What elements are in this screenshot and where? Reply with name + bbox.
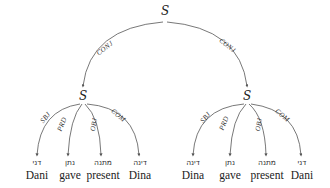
right-word-4-hebrew: דני — [298, 158, 307, 167]
edge-left-prd — [68, 104, 82, 155]
label-right-sbj: SBJ — [199, 110, 213, 125]
left-word-3-english: present — [86, 169, 120, 182]
left-word-3-hebrew: מתנה — [94, 158, 112, 167]
left-word-2-english: gave — [59, 169, 81, 182]
right-word-3-english: present — [250, 169, 284, 182]
dependency-tree: S CONJ CONJ S SBJ PRD OBJ COM דני נתן מת… — [0, 0, 330, 188]
left-word-4-english: Dina — [129, 169, 151, 181]
label-left-sbj: SBJ — [39, 110, 53, 125]
left-word-1-english: Dani — [26, 169, 48, 181]
left-word-2-hebrew: נתן — [65, 158, 75, 167]
edge-conj-left — [83, 22, 163, 86]
right-word-2-hebrew: נתן — [225, 158, 235, 167]
right-s-node: S — [243, 89, 251, 103]
edge-conj-right — [167, 22, 247, 86]
right-word-2-english: gave — [219, 169, 241, 182]
edge-right-prd — [230, 104, 246, 155]
label-left-com: COM — [109, 107, 127, 124]
right-word-1-english: Dina — [182, 169, 204, 181]
root-s-node: S — [161, 4, 169, 18]
right-word-3-hebrew: מתנה — [258, 158, 276, 167]
label-left-prd: PRD — [55, 116, 68, 133]
label-right-prd: PRD — [217, 115, 230, 132]
left-word-4-hebrew: דינה — [133, 158, 147, 167]
left-word-1-hebrew: דני — [33, 158, 42, 167]
right-word-4-english: Dani — [291, 169, 313, 181]
left-s-node: S — [79, 89, 87, 103]
right-word-1-hebrew: דינה — [186, 158, 200, 167]
